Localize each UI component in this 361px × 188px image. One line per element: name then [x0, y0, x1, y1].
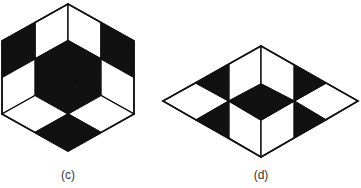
- figure-canvas: (c) (d): [0, 0, 361, 188]
- figure-c-hexagon: [2, 4, 134, 151]
- figure-d-label: (d): [254, 168, 269, 182]
- figure-d-diamond: [163, 46, 358, 157]
- figure-c-label: (c): [61, 168, 75, 182]
